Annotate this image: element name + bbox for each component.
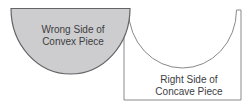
concave-piece-label-line2: Concave Piece (129, 86, 249, 98)
convex-piece-label-line1: Wrong Side of (13, 24, 133, 36)
concave-piece-label: Right Side of Concave Piece (129, 74, 249, 97)
concave-piece-label-line1: Right Side of (129, 74, 249, 86)
convex-piece-label: Wrong Side of Convex Piece (13, 24, 133, 47)
piece-orientation-diagram: Wrong Side of Convex Piece Right Side of… (0, 0, 251, 108)
convex-piece-label-line2: Convex Piece (13, 36, 133, 48)
